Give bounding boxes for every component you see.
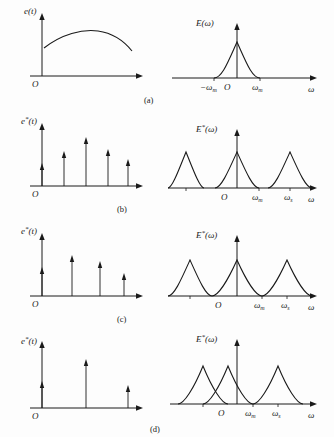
- origin-label: O: [32, 79, 39, 89]
- row-b-left-plot: e*(t) O: [21, 115, 143, 199]
- spectrum-lobe-right: [253, 366, 303, 404]
- row-a-right-plot: E(ω) −ωm O ωm ω: [172, 18, 317, 94]
- signal-curve: [44, 31, 132, 51]
- x-axis-label: ω: [308, 302, 314, 312]
- y-axis-arrowhead: [234, 235, 239, 242]
- origin-label: O: [32, 189, 39, 199]
- y-axis-arrowhead: [39, 123, 44, 130]
- y-axis-arrowhead: [234, 339, 239, 346]
- y-axis-label: e*(t): [21, 225, 37, 236]
- row-b: e*(t) O E*(ω) O ωm ωs ω (b): [21, 115, 317, 214]
- y-axis-arrowhead: [234, 23, 239, 30]
- impulse-arrowhead: [126, 159, 130, 166]
- y-axis-arrowhead: [39, 341, 44, 348]
- y-axis-arrowhead: [39, 233, 44, 240]
- impulse-arrowhead: [84, 137, 88, 144]
- x-axis-arrowhead: [310, 401, 317, 406]
- impulse-arrowhead: [84, 359, 88, 366]
- row-a-left-plot: e(t) O: [24, 6, 143, 89]
- y-axis-label: E*(ω): [195, 333, 217, 344]
- impulse-train: [40, 137, 130, 186]
- x-axis-arrowhead: [136, 183, 143, 188]
- y-axis-label: E*(ω): [195, 229, 217, 240]
- impulse-arrowhead: [40, 381, 44, 388]
- panel-tag-c: (c): [117, 314, 127, 324]
- impulse-arrowhead: [98, 261, 102, 268]
- origin-label: O: [32, 299, 39, 309]
- x-axis-label: ω: [308, 84, 314, 94]
- x-axis-arrowhead: [136, 73, 143, 78]
- spectrum-lobe-right: [268, 152, 312, 188]
- spectrum-lobe-center: [203, 366, 253, 404]
- impulse-arrowhead: [40, 267, 44, 274]
- impulse-arrowhead: [62, 151, 66, 158]
- tick-label-omega-s: ωs: [272, 408, 281, 419]
- row-d-right-plot: E*(ω) O ωm ωs ω: [170, 333, 317, 420]
- impulse-arrowhead: [126, 385, 130, 392]
- origin-label: O: [218, 408, 225, 418]
- origin-label: O: [221, 192, 228, 202]
- y-axis-arrowhead: [234, 129, 239, 136]
- panel-tag-a: (a): [144, 95, 154, 105]
- row-c-left-plot: e*(t) O: [21, 225, 143, 309]
- impulse-train: [40, 359, 130, 408]
- tick-label-omega-s: ωs: [284, 192, 293, 203]
- origin-label: O: [215, 300, 222, 310]
- spectrum-lobe-left: [178, 366, 228, 404]
- spectrum-lobe-left: [168, 152, 204, 188]
- row-c-right-plot: E*(ω) O ωm ωs ω: [168, 229, 317, 312]
- x-axis-arrowhead: [136, 405, 143, 410]
- x-axis-arrowhead: [310, 75, 317, 80]
- y-axis-label: e*(t): [21, 335, 37, 346]
- impulse-arrowhead: [40, 163, 44, 170]
- row-d-left-plot: e*(t) O: [21, 335, 143, 421]
- tick-label-omega-m: ωm: [252, 192, 263, 203]
- x-axis-arrowhead: [136, 293, 143, 298]
- impulse-arrowhead: [70, 255, 74, 262]
- tick-label-omega-m: ωm: [245, 408, 256, 419]
- x-axis-label: ω: [308, 410, 314, 420]
- impulse-train: [40, 255, 126, 296]
- panel-tag-b: (b): [117, 204, 127, 214]
- tick-label-omega-m: ωm: [252, 82, 263, 93]
- impulse-arrowhead: [106, 149, 110, 156]
- panel-tag-d: (d): [150, 424, 160, 434]
- y-axis-label: e*(t): [21, 115, 37, 126]
- row-b-right-plot: E*(ω) O ωm ωs ω: [168, 123, 317, 204]
- origin-label: O: [224, 82, 231, 92]
- row-a: e(t) O E(ω) −ωm O ωm ω (a): [24, 6, 317, 105]
- y-axis-label: E*(ω): [195, 123, 217, 134]
- row-d: e*(t) O E*(ω) O ωm ωs ω (d): [21, 333, 317, 434]
- tick-label-omega-m: ωm: [254, 300, 265, 311]
- sampling-theorem-figure: e(t) O E(ω) −ωm O ωm ω (a): [0, 0, 334, 437]
- spectrum-lobe-right: [262, 260, 312, 296]
- origin-label: O: [32, 411, 39, 421]
- impulse-arrowhead: [122, 273, 126, 280]
- tick-label-minus-omega-m: −ωm: [200, 82, 217, 93]
- y-axis-label: e(t): [24, 6, 37, 16]
- y-axis-arrowhead: [39, 13, 44, 20]
- y-axis-label: E(ω): [195, 18, 214, 28]
- tick-label-omega-s: ωs: [281, 300, 290, 311]
- spectrum-lobe-left: [168, 260, 212, 296]
- x-axis-label: ω: [308, 194, 314, 204]
- row-c: e*(t) O E*(ω) O ωm ωs ω (c): [21, 225, 317, 324]
